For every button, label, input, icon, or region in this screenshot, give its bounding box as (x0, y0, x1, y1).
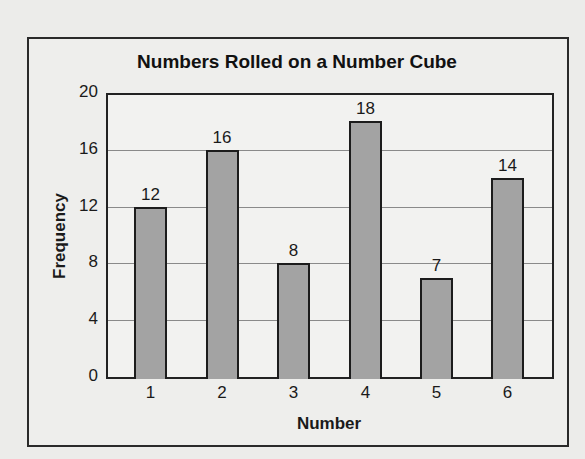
y-tick-label: 4 (62, 309, 98, 329)
gridline (108, 150, 552, 151)
x-tick-label: 3 (274, 383, 314, 403)
y-tick-label: 12 (62, 196, 98, 216)
bar-value-label: 7 (412, 256, 462, 276)
gridline (108, 263, 552, 264)
bar-value-label: 18 (341, 99, 391, 119)
bar-value-label: 8 (269, 241, 319, 261)
y-tick-label: 20 (62, 82, 98, 102)
x-tick-label: 1 (131, 383, 171, 403)
bar-6 (491, 178, 524, 379)
bar-1 (134, 207, 167, 379)
x-tick-label: 4 (346, 383, 386, 403)
bar-4 (349, 121, 382, 379)
x-tick-label: 6 (488, 383, 528, 403)
y-tick-label: 8 (62, 252, 98, 272)
bar-5 (420, 278, 453, 379)
bar-3 (277, 263, 310, 379)
y-tick-label: 0 (62, 366, 98, 386)
plot-area (106, 93, 554, 379)
x-tick-label: 5 (417, 383, 457, 403)
bar-value-label: 16 (197, 128, 247, 148)
chart-title: Numbers Rolled on a Number Cube (27, 51, 567, 73)
x-tick-label: 2 (202, 383, 242, 403)
bar-value-label: 14 (483, 156, 533, 176)
bar-2 (206, 150, 239, 379)
y-tick-label: 16 (62, 139, 98, 159)
gridline (108, 207, 552, 208)
gridline (108, 320, 552, 321)
bar-value-label: 12 (126, 185, 176, 205)
x-axis-label: Number (106, 414, 552, 434)
